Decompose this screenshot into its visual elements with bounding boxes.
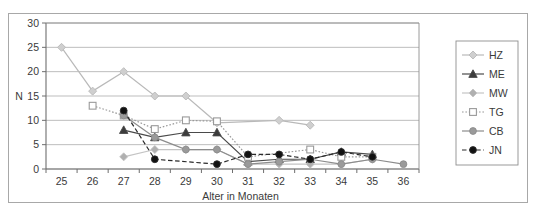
x-axis-tick-label: 25 — [56, 175, 68, 187]
x-axis-tick-label: 31 — [242, 175, 254, 187]
x-axis-tick-label: 28 — [149, 175, 161, 187]
legend-box — [456, 41, 518, 165]
data-point-CB — [182, 146, 189, 153]
data-point-JN — [214, 161, 221, 168]
data-point-CB — [338, 161, 345, 168]
x-axis-title: Alter in Monaten — [202, 190, 279, 202]
data-point-CB — [276, 158, 283, 165]
data-point-CB — [214, 146, 221, 153]
y-axis-tick-label: 30 — [27, 17, 39, 29]
legend-label-JN: JN — [489, 144, 502, 156]
x-axis-tick-label: 35 — [367, 175, 379, 187]
x-axis-tick-label: 33 — [304, 175, 316, 187]
legend-label-HZ: HZ — [489, 49, 504, 61]
data-point-TG — [89, 102, 96, 109]
legend-marker-JN — [470, 147, 477, 154]
data-point-TG — [307, 146, 314, 153]
x-axis-tick-label: 27 — [118, 175, 130, 187]
legend-marker-TG — [470, 109, 477, 116]
x-axis-tick-label: 32 — [273, 175, 285, 187]
legend-label-ME: ME — [489, 68, 505, 80]
data-point-TG — [214, 118, 221, 125]
figure-root: 051015202530252627282930313233343536Alte… — [0, 0, 535, 216]
data-point-JN — [338, 149, 345, 156]
x-axis-tick-label: 36 — [398, 175, 410, 187]
legend: HZMEMWTGCBJN — [456, 41, 518, 165]
y-axis-tick-label: 10 — [27, 114, 39, 126]
data-point-JN — [120, 107, 127, 114]
data-point-JN — [151, 156, 158, 163]
y-axis-tick-label: 25 — [27, 41, 39, 53]
data-point-JN — [307, 156, 314, 163]
data-point-TG — [182, 117, 189, 124]
x-axis-tick-label: 34 — [335, 175, 347, 187]
data-point-JN — [245, 151, 252, 158]
data-point-JN — [276, 151, 283, 158]
y-axis-tick-label: 20 — [27, 65, 39, 77]
data-point-CB — [151, 134, 158, 141]
data-point-JN — [369, 153, 376, 160]
y-axis-tick-label: 15 — [27, 90, 39, 102]
y-axis-tick-label: 5 — [33, 138, 39, 150]
line-chart: 051015202530252627282930313233343536Alte… — [9, 14, 529, 204]
data-point-CB — [400, 161, 407, 168]
x-axis-tick-label: 30 — [211, 175, 223, 187]
x-axis-tick-label: 26 — [87, 175, 99, 187]
y-axis-tick-label: 0 — [33, 163, 39, 175]
figure-frame: 051015202530252627282930313233343536Alte… — [8, 13, 528, 203]
legend-label-CB: CB — [489, 125, 504, 137]
legend-marker-CB — [470, 128, 477, 135]
legend-label-MW: MW — [489, 87, 508, 99]
data-point-TG — [151, 126, 158, 133]
x-axis-tick-label: 29 — [180, 175, 192, 187]
y-axis-title: N — [15, 90, 23, 102]
legend-label-TG: TG — [489, 106, 504, 118]
data-point-CB — [245, 161, 252, 168]
